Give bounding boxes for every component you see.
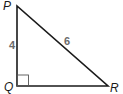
right-triangle-diagram: P Q R 4 6: [0, 0, 123, 94]
vertex-label-q: Q: [4, 81, 13, 93]
vertex-label-r: R: [110, 82, 119, 94]
side-label-pq: 4: [9, 40, 15, 51]
triangle-pqr: [17, 6, 108, 86]
right-angle-marker: [18, 75, 29, 86]
triangle-svg: [0, 0, 123, 94]
vertex-label-p: P: [3, 0, 11, 12]
side-label-pr: 6: [64, 36, 70, 47]
